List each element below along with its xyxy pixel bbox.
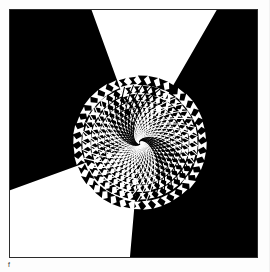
page-edge-hairline: [269, 0, 270, 272]
artwork-page: f: [0, 0, 270, 272]
plate-caption-mark: f: [8, 261, 10, 269]
plate-frame: [9, 9, 258, 258]
vortex-tessellation-artwork: [10, 10, 257, 257]
